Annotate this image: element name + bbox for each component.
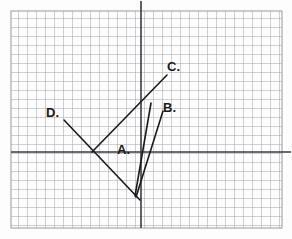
label-d: D. [46, 106, 59, 119]
figure-svg [0, 0, 292, 239]
label-c: C. [167, 60, 180, 73]
label-a: A. [117, 143, 130, 156]
graph-paper-figure: A. B. C. D. [0, 0, 292, 239]
label-b: B. [163, 101, 176, 114]
